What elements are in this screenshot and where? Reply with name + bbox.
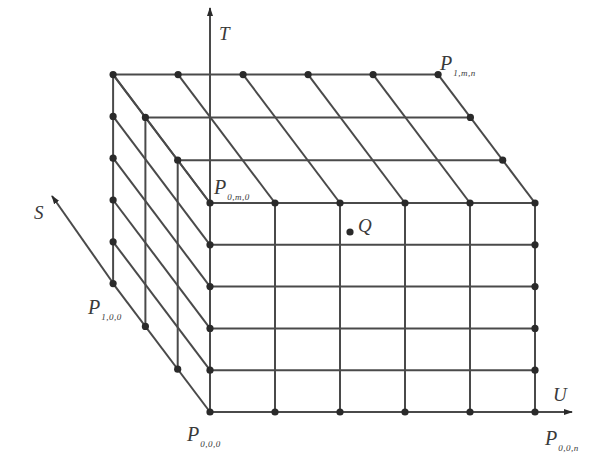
point-label-p-1-0-0: P1,0,0 <box>88 297 122 322</box>
control-point <box>206 241 213 248</box>
control-point <box>336 408 343 415</box>
q-point-dot <box>346 228 353 235</box>
control-point <box>531 283 538 290</box>
control-point <box>142 323 149 330</box>
point-label-p-0-0-0: P0,0,0 <box>187 424 221 449</box>
s-axis-arrow <box>52 196 113 283</box>
control-point <box>531 241 538 248</box>
control-point <box>110 238 117 245</box>
control-point <box>499 157 506 164</box>
control-point <box>336 199 343 206</box>
point-label-p-1-m-n: P1,m,n <box>440 53 476 78</box>
control-point <box>174 366 181 373</box>
left-s-line <box>113 116 210 244</box>
control-point <box>466 408 473 415</box>
control-point <box>110 196 117 203</box>
grid-lines <box>113 75 535 412</box>
coordinate-axes <box>52 8 572 412</box>
left-s-line <box>113 75 210 203</box>
point-label-q: Q <box>358 216 372 235</box>
parametric-grid-diagram: T U S P1,m,n P0,m,0 P1,0,0 P0,0,0 P0,0,n… <box>0 0 615 476</box>
control-point <box>401 408 408 415</box>
control-point <box>206 408 213 415</box>
axis-label-t: T <box>219 24 230 43</box>
left-s-line <box>113 200 210 328</box>
control-point <box>531 408 538 415</box>
control-point <box>305 71 312 78</box>
control-point <box>271 199 278 206</box>
control-point <box>531 367 538 374</box>
left-s-line <box>113 242 210 370</box>
top-s-line <box>438 75 535 203</box>
control-point <box>110 155 117 162</box>
control-point <box>175 71 182 78</box>
left-s-line <box>113 158 210 286</box>
grid-cube-drawing <box>0 0 615 476</box>
control-point <box>370 71 377 78</box>
top-s-line <box>373 75 470 203</box>
point-label-p-0-0-n: P0,0,n <box>545 428 579 453</box>
control-point <box>174 157 181 164</box>
point-label-p-0-m-0: P0,m,0 <box>214 177 250 202</box>
control-point <box>271 408 278 415</box>
left-s-line <box>113 284 210 412</box>
top-s-line <box>243 75 340 203</box>
control-point <box>206 325 213 332</box>
control-point <box>240 71 247 78</box>
control-point <box>110 71 117 78</box>
control-point <box>110 113 117 120</box>
control-point <box>206 367 213 374</box>
control-point <box>466 199 473 206</box>
control-point <box>206 199 213 206</box>
top-s-line <box>308 75 405 203</box>
control-point <box>531 199 538 206</box>
control-point <box>110 280 117 287</box>
axis-label-s: S <box>34 203 44 222</box>
control-point <box>467 114 474 121</box>
control-point <box>206 283 213 290</box>
axis-label-u: U <box>553 385 567 404</box>
control-point <box>142 114 149 121</box>
control-point <box>531 325 538 332</box>
control-point <box>401 199 408 206</box>
